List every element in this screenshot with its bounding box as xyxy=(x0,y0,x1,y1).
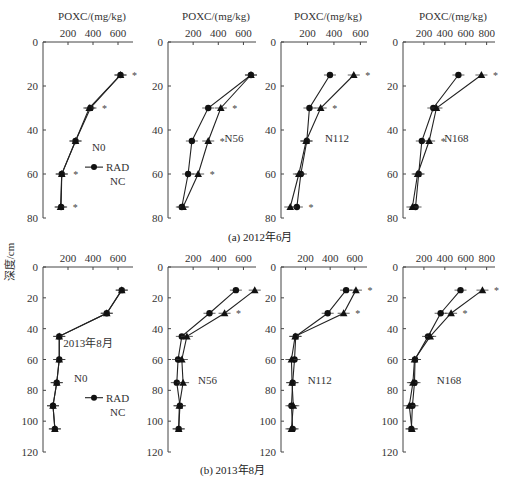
x-tick-label: 600 xyxy=(110,252,127,264)
caption-2013: (b) 2013年8月 xyxy=(200,463,265,477)
significance-star: * xyxy=(73,169,78,180)
panel-label: N168 xyxy=(444,132,469,144)
significance-star: * xyxy=(132,70,137,81)
x-tick-label: 600 xyxy=(235,27,252,39)
y-tick-label: 80 xyxy=(152,384,164,396)
y-tick-label: 40 xyxy=(152,124,164,136)
x-tick-label: 200 xyxy=(60,252,77,264)
y-tick-label: 120 xyxy=(147,446,164,458)
triangle-marker xyxy=(179,379,187,386)
x-tick-label: 400 xyxy=(85,252,102,264)
legend: RADNC xyxy=(85,392,129,418)
y-tick-label: 20 xyxy=(27,80,39,92)
circle-marker xyxy=(455,72,461,78)
triangle-marker xyxy=(251,286,259,293)
panel-n112-2012: 200400600020406080POXC/(mg/kg)***N112 xyxy=(265,10,370,224)
significance-star: * xyxy=(232,103,237,114)
triangle-marker xyxy=(479,286,487,293)
triangle-marker xyxy=(221,309,229,316)
y-tick-label: 120 xyxy=(22,446,39,458)
significance-star: * xyxy=(308,202,313,213)
y-tick-label: 0 xyxy=(33,261,39,273)
significance-star: * xyxy=(365,70,370,81)
panel-n0-2012: 200400600020406080POXC/(mg/kg)****N0RADN… xyxy=(27,10,137,224)
y-tick-label: 20 xyxy=(265,292,277,304)
panel-n0-2013: 200400600020406080100120N0RADNC2013年8月 xyxy=(22,252,134,458)
triangle-marker xyxy=(447,309,455,316)
y-tick-label: 20 xyxy=(387,80,399,92)
legend-rad: RAD xyxy=(106,392,129,404)
triangle-marker xyxy=(340,309,348,316)
triangle-marker xyxy=(350,71,358,78)
x-tick-label: 600 xyxy=(352,27,369,39)
significance-star: * xyxy=(236,308,241,319)
triangle-marker xyxy=(204,137,212,144)
y-tick-label: 40 xyxy=(27,124,39,136)
y-tick-label: 0 xyxy=(393,261,399,273)
significance-star: * xyxy=(102,103,107,114)
triangle-marker xyxy=(286,203,294,210)
y-tick-label: 60 xyxy=(265,354,277,366)
significance-star: * xyxy=(210,169,215,180)
x-axis-title: POXC/(mg/kg) xyxy=(58,10,126,23)
y-tick-label: 100 xyxy=(260,415,277,427)
x-tick-label: 400 xyxy=(210,252,227,264)
x-tick-label: 400 xyxy=(437,27,454,39)
y-tick-label: 80 xyxy=(387,212,399,224)
y-tick-label: 100 xyxy=(382,415,399,427)
y-tick-label: 40 xyxy=(265,323,277,335)
y-tick-label: 0 xyxy=(271,36,277,48)
y-tick-label: 120 xyxy=(260,446,277,458)
y-tick-label: 40 xyxy=(387,323,399,335)
panel-n168-2012: 200400600800020406080POXC/(mg/kg)**N168 xyxy=(387,10,498,224)
legend-nc: NC xyxy=(110,175,125,187)
y-tick-label: 100 xyxy=(22,415,39,427)
x-axis-title: POXC/(mg/kg) xyxy=(182,10,250,23)
legend-circle-icon xyxy=(91,395,97,401)
y-tick-label: 0 xyxy=(158,261,164,273)
y-tick-label: 80 xyxy=(265,384,277,396)
depth-profile-figure: 200400600020406080POXC/(mg/kg)****N0RADN… xyxy=(0,0,506,482)
x-tick-label: 600 xyxy=(457,252,474,264)
triangle-marker xyxy=(352,286,360,293)
x-tick-label: 200 xyxy=(416,252,433,264)
y-tick-label: 20 xyxy=(152,292,164,304)
y-tick-label: 60 xyxy=(152,168,164,180)
y-tick-label: 120 xyxy=(382,446,399,458)
panel-n112-2013: 200400600020406080100120**N112 xyxy=(260,252,373,458)
y-axis-label: 深度/cm xyxy=(3,242,16,281)
y-tick-label: 80 xyxy=(27,384,39,396)
y-tick-label: 20 xyxy=(387,292,399,304)
y-tick-label: 40 xyxy=(387,124,399,136)
circle-marker xyxy=(185,171,191,177)
y-tick-label: 20 xyxy=(27,292,39,304)
triangle-marker xyxy=(194,170,202,177)
circle-marker xyxy=(324,310,330,316)
y-tick-label: 80 xyxy=(387,384,399,396)
circle-marker xyxy=(233,287,239,293)
y-tick-label: 20 xyxy=(152,80,164,92)
caption-2012: (a) 2012年6月 xyxy=(228,230,292,244)
panel-label: N112 xyxy=(308,374,332,386)
x-tick-label: 600 xyxy=(346,252,363,264)
x-tick-label: 400 xyxy=(210,27,227,39)
circle-marker xyxy=(437,310,443,316)
x-tick-label: 400 xyxy=(326,27,343,39)
x-tick-label: 400 xyxy=(322,252,339,264)
legend-rad: RAD xyxy=(106,161,129,173)
y-tick-label: 60 xyxy=(27,168,39,180)
y-tick-label: 60 xyxy=(265,168,277,180)
x-tick-label: 400 xyxy=(437,252,454,264)
significance-star: * xyxy=(367,285,372,296)
x-tick-label: 200 xyxy=(299,27,316,39)
y-tick-label: 80 xyxy=(152,212,164,224)
y-tick-label: 80 xyxy=(265,212,277,224)
panel-label: N0 xyxy=(92,141,106,153)
x-tick-label: 400 xyxy=(85,27,102,39)
x-tick-label: 200 xyxy=(185,27,202,39)
x-tick-label: 800 xyxy=(478,27,495,39)
triangle-marker xyxy=(478,71,486,78)
y-tick-label: 60 xyxy=(152,354,164,366)
x-axis-title: POXC/(mg/kg) xyxy=(419,10,487,23)
panel-label: N112 xyxy=(325,132,349,144)
